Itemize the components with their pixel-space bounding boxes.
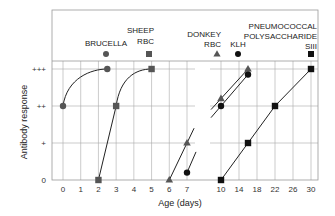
series-line: [221, 69, 248, 99]
y-tick-label: +++: [32, 65, 46, 74]
x-tick-label: 5: [149, 185, 154, 194]
x-tick-label: 22: [271, 185, 280, 194]
x-tick-label: 0: [61, 185, 66, 194]
x-tick-label: 26: [289, 185, 298, 194]
data-point: [218, 177, 224, 183]
x-tick-label: 4: [132, 185, 137, 194]
legend-label: RBC: [204, 40, 221, 49]
y-tick-label: ++: [37, 102, 47, 111]
legend-label: SIII: [305, 42, 317, 51]
x-axis-label: Age (days): [158, 198, 202, 208]
data-point: [95, 177, 101, 183]
legend-item-sheep-rbc: SHEEPRBC: [127, 26, 154, 57]
data-point: [218, 103, 224, 109]
series-brucella: [60, 66, 111, 109]
x-tick-label: 1: [78, 185, 83, 194]
data-point: [165, 176, 173, 183]
data-point: [60, 103, 66, 109]
y-axis-label: Antibody response: [19, 85, 29, 160]
legend-label: BRUCELLA: [85, 39, 128, 48]
x-tick-label: 30: [307, 185, 316, 194]
series-pneumococcal-polysaccharide-siii: [218, 66, 314, 183]
x-tick-label: 10: [217, 185, 226, 194]
legend-panel: BRUCELLASHEEPRBCDONKEYRBCKLHPNEUMOCOCCAL…: [85, 22, 318, 57]
y-tick-label: +: [41, 139, 46, 148]
data-point: [104, 66, 110, 72]
series-klh: [184, 71, 251, 175]
antibody-response-chart: BRUCELLASHEEPRBCDONKEYRBCKLHPNEUMOCOCCAL…: [0, 0, 335, 216]
legend-item-donkey-rbc: DONKEYRBC: [187, 30, 221, 56]
data-point: [308, 66, 314, 72]
data-point: [184, 169, 190, 175]
data-point: [113, 103, 119, 109]
legend-item-klh: KLH: [230, 40, 246, 57]
legend-label: POLYSACCHARIDE: [244, 32, 317, 41]
data-point: [244, 65, 252, 72]
data-point: [245, 71, 251, 77]
axes: 0++++++01234567101418222630: [32, 65, 316, 194]
legend-item-brucella: BRUCELLA: [85, 39, 128, 57]
legend-item-pneumococcal-polysaccharide-siii: PNEUMOCOCCALPOLYSACCHARIDESIII: [244, 22, 318, 57]
x-tick-label: 18: [253, 185, 262, 194]
legend-marker: [235, 51, 241, 57]
x-tick-label: 7: [185, 185, 190, 194]
series-line: [98, 69, 151, 180]
series-line: [221, 69, 311, 180]
legend-marker: [146, 51, 152, 57]
x-tick-label: 3: [114, 185, 119, 194]
series-sheep-rbc: [95, 66, 155, 183]
x-tick-label: 6: [167, 185, 172, 194]
data-point: [148, 66, 154, 72]
legend-label: DONKEY: [187, 30, 221, 39]
x-tick-label: 2: [96, 185, 101, 194]
grid: [52, 61, 318, 180]
series-line: [169, 128, 194, 180]
series-line: [63, 69, 107, 106]
legend-marker: [213, 50, 220, 56]
legend-label: KLH: [230, 40, 246, 49]
data-point: [272, 103, 278, 109]
series-line: [221, 75, 248, 106]
data-point: [183, 139, 191, 146]
x-tick-label: 14: [235, 185, 244, 194]
data-point: [245, 140, 251, 146]
legend-marker: [103, 51, 109, 57]
legend-label: PNEUMOCOCCAL: [249, 22, 318, 31]
legend-label: SHEEP: [127, 26, 154, 35]
legend-marker: [308, 51, 314, 57]
series-line: [187, 152, 196, 173]
y-tick-label: 0: [42, 176, 47, 185]
legend-label: RBC: [137, 37, 154, 46]
